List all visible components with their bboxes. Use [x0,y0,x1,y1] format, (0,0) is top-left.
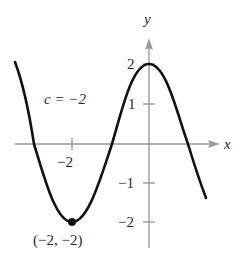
x-tick-label-neg2: −2 [57,154,73,170]
chart-canvas: y x 2 1 −1 −2 −2 c = −2 (−2, −2) [0,0,240,266]
y-tick-label-1: 1 [128,96,136,112]
x-axis-label: x [223,136,231,152]
highlighted-point-marker [68,218,76,226]
y-axis-label: y [142,11,151,27]
curve-series [15,62,206,222]
y-tick-label-neg1: −1 [118,175,134,191]
y-tick-label-neg2: −2 [118,214,134,230]
highlighted-point-label: (−2, −2) [33,232,82,249]
y-tick-label-2: 2 [127,56,135,72]
annotation-c-value: c = −2 [44,91,86,107]
